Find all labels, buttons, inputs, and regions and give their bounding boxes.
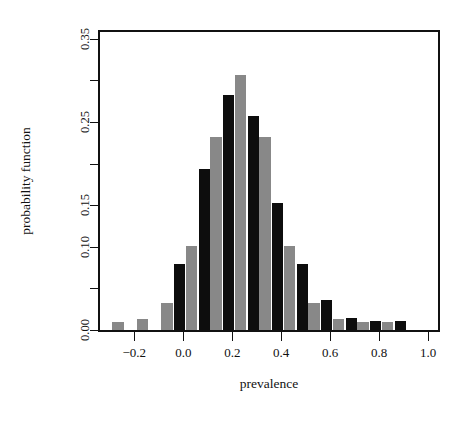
bar-gray-2 (161, 303, 172, 330)
bar-black-11 (370, 321, 381, 330)
x-tick-1 (183, 332, 184, 341)
bar-gray-5 (235, 75, 246, 330)
bar-black-4 (199, 169, 210, 330)
bar-black-9 (321, 300, 332, 330)
bars-layer (100, 32, 438, 330)
bar-gray-9 (333, 319, 344, 330)
x-axis: prevalence −0.20.00.20.40.60.81.0 (0, 332, 471, 432)
bar-black-7 (272, 203, 283, 330)
y-tick-4 (90, 164, 98, 165)
x-tick-6 (428, 332, 429, 341)
bar-black-5 (223, 95, 234, 330)
x-tick-0 (134, 332, 135, 341)
x-tick-2 (232, 332, 233, 341)
bar-gray-1 (137, 319, 148, 330)
bar-black-6 (248, 116, 259, 330)
x-tick-label-0: −0.2 (122, 345, 146, 361)
x-tick-3 (281, 332, 282, 341)
bar-black-3 (174, 264, 185, 330)
bar-gray-11 (382, 322, 393, 330)
y-tick-label-7: 0.35 (79, 39, 94, 61)
x-tick-label-2: 0.2 (224, 345, 240, 361)
x-tick-label-5: 0.8 (371, 345, 387, 361)
y-tick-label-2: 0.10 (79, 247, 94, 269)
plot-area (98, 30, 440, 332)
y-tick-6 (90, 80, 98, 81)
bar-gray-3 (186, 246, 197, 330)
bar-gray-0 (112, 322, 123, 330)
bar-gray-6 (259, 137, 270, 330)
figure: probability function 0.000.100.150.250.3… (0, 0, 471, 432)
bar-gray-8 (308, 303, 319, 330)
bar-black-8 (297, 264, 308, 330)
bar-gray-7 (284, 246, 295, 330)
bar-gray-10 (357, 322, 368, 330)
bar-black-10 (346, 318, 357, 330)
y-tick-1 (90, 288, 98, 289)
x-axis-title: prevalence (240, 376, 298, 392)
x-tick-4 (330, 332, 331, 341)
x-tick-label-4: 0.6 (322, 345, 338, 361)
y-tick-label-5: 0.25 (79, 122, 94, 144)
x-tick-label-6: 1.0 (420, 345, 436, 361)
y-axis-title: probability function (18, 127, 34, 235)
bar-gray-4 (210, 137, 221, 330)
bar-black-12 (395, 321, 406, 330)
x-tick-label-3: 0.4 (273, 345, 289, 361)
y-tick-label-3: 0.15 (79, 205, 94, 227)
x-tick-label-1: 0.0 (175, 345, 191, 361)
x-tick-5 (379, 332, 380, 341)
